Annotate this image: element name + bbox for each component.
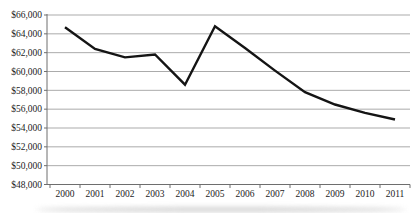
y-axis-label: $48,000 bbox=[11, 180, 42, 190]
x-axis-label: 2001 bbox=[86, 189, 105, 199]
x-axis-label: 2004 bbox=[176, 189, 195, 199]
y-axis-label: $62,000 bbox=[11, 48, 42, 58]
x-axis-label: 2006 bbox=[236, 189, 255, 199]
x-axis-label: 2011 bbox=[386, 189, 405, 199]
y-axis-label: $54,000 bbox=[11, 123, 42, 133]
y-axis-label: $50,000 bbox=[11, 161, 42, 171]
y-axis-label: $58,000 bbox=[11, 86, 42, 96]
y-axis-label: $52,000 bbox=[11, 142, 42, 152]
y-axis-label: $66,000 bbox=[11, 10, 42, 20]
x-axis-label: 2002 bbox=[116, 189, 135, 199]
x-axis-label: 2000 bbox=[56, 189, 75, 199]
y-axis-label: $56,000 bbox=[11, 104, 42, 114]
x-axis-label: 2007 bbox=[266, 189, 285, 199]
income-chart-svg: $66,000$64,000$62,000$60,000$58,000$56,0… bbox=[0, 0, 414, 213]
data-line bbox=[65, 26, 395, 119]
x-axis-label: 2005 bbox=[206, 189, 225, 199]
chart-container: $66,000$64,000$62,000$60,000$58,000$56,0… bbox=[0, 0, 414, 213]
x-axis-label: 2003 bbox=[146, 189, 165, 199]
x-axis-label: 2009 bbox=[326, 189, 345, 199]
x-axis-label: 2010 bbox=[356, 189, 375, 199]
y-axis-label: $64,000 bbox=[11, 29, 42, 39]
x-axis-label: 2008 bbox=[296, 189, 315, 199]
y-axis-label: $60,000 bbox=[11, 67, 42, 77]
